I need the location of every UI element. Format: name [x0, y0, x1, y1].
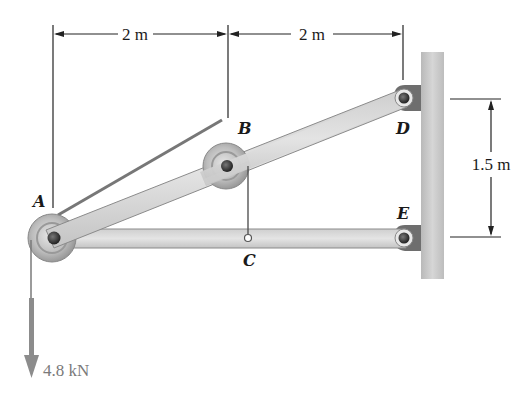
force-arrow-shaft	[29, 298, 34, 360]
force-label: 4.8 kN	[43, 361, 89, 380]
pin-e	[399, 233, 410, 244]
dimension-label-ab: 2 m	[122, 25, 148, 44]
frame-diagram: 2 m 2 m 1.5 m 4.8 kN A B C D	[0, 0, 530, 395]
label-b: B	[237, 119, 252, 138]
label-c: C	[243, 251, 256, 270]
pin-d	[399, 93, 410, 104]
wall	[421, 52, 444, 279]
label-e: E	[396, 204, 410, 223]
pin-b	[221, 160, 233, 172]
pin-a	[48, 232, 61, 245]
force-arrow-head	[24, 355, 39, 378]
pin-c	[245, 235, 252, 242]
member-ae	[52, 229, 406, 248]
label-a: A	[31, 192, 45, 211]
pulley-b	[200, 92, 405, 189]
dimension-label-bd: 2 m	[299, 25, 325, 44]
label-d: D	[395, 119, 410, 138]
dimension-label-de: 1.5 m	[472, 155, 511, 174]
